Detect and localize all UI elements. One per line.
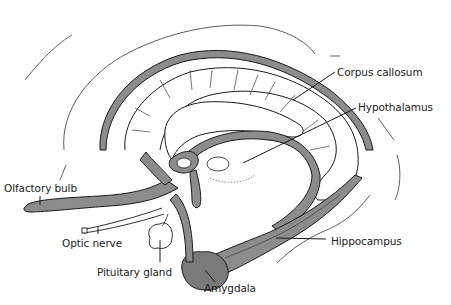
label-amygdala: Amygdala bbox=[204, 282, 256, 294]
brain-drawing bbox=[0, 0, 451, 305]
fornix-column bbox=[190, 170, 201, 208]
label-hypothalamus: Hypothalamus bbox=[358, 101, 433, 113]
connecting-band bbox=[140, 152, 172, 185]
label-hippocampus: Hippocampus bbox=[331, 235, 402, 247]
anterior-commissure bbox=[177, 158, 191, 168]
label-optic-nerve: Optic nerve bbox=[62, 237, 122, 249]
stria-terminalis bbox=[170, 194, 193, 262]
hypothalamus-nucleus bbox=[207, 157, 229, 171]
limbic-system-diagram: Corpus callosum Hypothalamus Olfactory b… bbox=[0, 0, 451, 305]
pituitary-gland-shape bbox=[149, 223, 173, 249]
label-olfactory-bulb: Olfactory bulb bbox=[4, 182, 77, 194]
label-corpus-callosum: Corpus callosum bbox=[337, 66, 423, 78]
label-pituitary-gland: Pituitary gland bbox=[97, 266, 172, 278]
